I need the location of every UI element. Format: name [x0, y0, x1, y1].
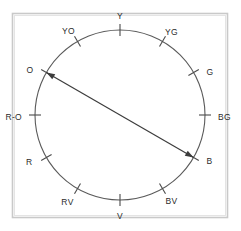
color-wheel-figure: YYGGBGBBVVRVRR-OOYO: [0, 0, 241, 231]
hue-label-yellow: Y: [117, 11, 123, 21]
hue-label-red-orange: R-O: [6, 112, 23, 122]
hue-label-yellow-green: YG: [165, 27, 178, 37]
hue-label-blue-violet: BV: [166, 196, 178, 206]
hue-label-blue-green: BG: [218, 112, 231, 122]
hue-label-orange: O: [26, 65, 33, 75]
hue-label-blue: B: [207, 156, 213, 166]
hue-label-green: G: [207, 67, 214, 77]
hue-label-red: R: [26, 157, 32, 167]
color-wheel-diagram: YYGGBGBBVVRVRR-OOYO: [0, 0, 241, 231]
hue-label-red-violet: RV: [61, 197, 73, 207]
hue-label-violet: V: [117, 211, 123, 221]
hue-label-yellow-orange: YO: [62, 26, 75, 36]
